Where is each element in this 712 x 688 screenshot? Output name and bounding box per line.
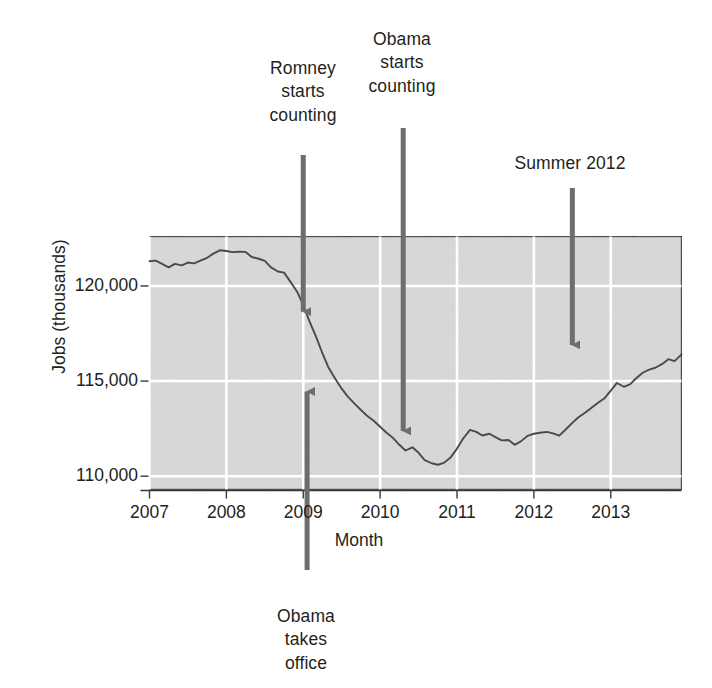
- y-tick-label-115000: 115,000: [20, 370, 138, 391]
- annotation-summer-2012: Summer 2012: [470, 152, 670, 175]
- y-tick-label-120000: 120,000: [20, 275, 138, 296]
- x-tick-label-2011: 2011: [422, 502, 492, 523]
- y-tick-label-110000: 110,000: [20, 465, 138, 486]
- jobs-chart-figure: Romney starts counting Obama starts coun…: [0, 0, 712, 688]
- x-tick-label-2008: 2008: [191, 502, 261, 523]
- x-tick-label-2009: 2009: [268, 502, 338, 523]
- x-axis-label: Month: [299, 530, 419, 551]
- x-tick-label-2013: 2013: [576, 502, 646, 523]
- annotation-obama-starts-counting: Obama starts counting: [322, 28, 482, 98]
- x-tick-label-2012: 2012: [499, 502, 569, 523]
- annotation-obama-takes-office: Obama takes office: [220, 605, 392, 675]
- plot-area-background: [150, 237, 682, 490]
- x-tick-label-2007: 2007: [115, 502, 185, 523]
- x-tick-label-2010: 2010: [345, 502, 415, 523]
